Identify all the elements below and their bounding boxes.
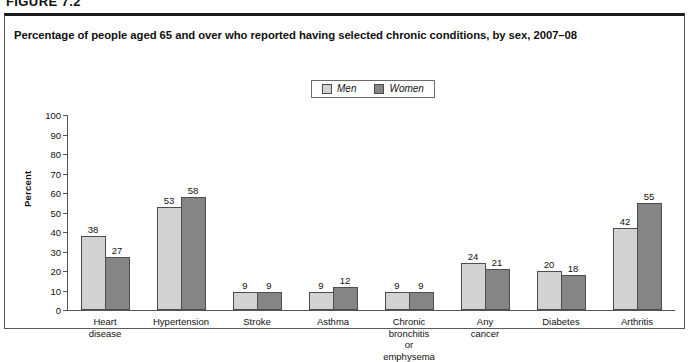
bar-group-bars: 5358: [143, 115, 219, 310]
bar-value-label: 38: [88, 224, 99, 235]
bar-group: 2421Any cancer: [447, 115, 523, 310]
legend-entry-men: Men: [322, 84, 356, 94]
legend-swatch-women-icon: [374, 84, 384, 94]
bar-group-bars: 99: [219, 115, 295, 310]
bar-women[interactable]: 21: [485, 269, 510, 310]
bar-value-label: 58: [188, 185, 199, 196]
chart-legend: Men Women: [311, 80, 435, 98]
bar-men[interactable]: 9: [385, 292, 410, 310]
bar-value-label: 9: [242, 280, 247, 291]
bar-women[interactable]: 27: [105, 257, 130, 310]
figure-box: Percentage of people aged 65 and over wh…: [4, 13, 685, 329]
y-axis-tick-label: 30: [50, 246, 61, 257]
bar-value-label: 18: [568, 263, 579, 274]
bar-value-label: 24: [468, 251, 479, 262]
y-axis-title: Percent: [22, 171, 33, 207]
bar-group-bars: 2018: [523, 115, 599, 310]
y-axis-tick-label: 50: [50, 207, 61, 218]
bar-group-bars: 4255: [599, 115, 675, 310]
y-axis-tick-label: 70: [50, 168, 61, 179]
x-axis-category-label: Arthritis: [621, 316, 653, 328]
bar-group: 4255Arthritis: [599, 115, 675, 310]
legend-entry-women: Women: [374, 84, 423, 94]
x-axis-category-label: Heart disease: [86, 316, 124, 339]
y-axis-tick-label: 20: [50, 266, 61, 277]
bar-men[interactable]: 9: [233, 292, 258, 310]
plot-area: 1009080706050403020100 3827Heart disease…: [67, 115, 675, 311]
bar-men[interactable]: 24: [461, 263, 486, 310]
figure-number: FIGURE 7.2: [6, 0, 81, 9]
bar-men[interactable]: 42: [613, 228, 638, 310]
bar-women[interactable]: 55: [637, 203, 662, 310]
bar-group: 912Asthma: [295, 115, 371, 310]
x-axis-category-label: Hypertension: [153, 316, 209, 328]
y-axis-tick-label: 90: [50, 129, 61, 140]
figure-title: Percentage of people aged 65 and over wh…: [14, 29, 577, 41]
y-axis-tick-mark: [63, 310, 67, 311]
bar-men[interactable]: 9: [309, 292, 334, 310]
y-axis-tick-label: 100: [45, 110, 61, 121]
bar-value-label: 42: [620, 216, 631, 227]
bar-women[interactable]: 18: [561, 275, 586, 310]
bar-men[interactable]: 38: [81, 236, 106, 310]
bar-value-label: 53: [164, 195, 175, 206]
bar-value-label: 21: [492, 257, 503, 268]
bar-women[interactable]: 12: [333, 287, 358, 310]
x-axis-category-label: Any cancer: [466, 316, 504, 339]
bar-group: 2018Diabetes: [523, 115, 599, 310]
bar-group-bars: 99: [371, 115, 447, 310]
bar-group-bars: 2421: [447, 115, 523, 310]
legend-label-men: Men: [337, 84, 356, 94]
y-axis-tick-label: 0: [56, 305, 61, 316]
legend-swatch-men-icon: [322, 84, 332, 94]
bar-group-bars: 912: [295, 115, 371, 310]
bar-value-label: 9: [394, 280, 399, 291]
bar-group: 3827Heart disease: [67, 115, 143, 310]
x-axis-category-label: Asthma: [317, 316, 349, 328]
y-axis-tick-label: 80: [50, 149, 61, 160]
x-axis-category-label: Stroke: [243, 316, 270, 328]
bar-women[interactable]: 9: [257, 292, 282, 310]
legend-label-women: Women: [389, 84, 423, 94]
bar-value-label: 12: [340, 275, 351, 286]
y-axis-tick-label: 60: [50, 188, 61, 199]
y-axis-tick-label: 40: [50, 227, 61, 238]
y-axis-tick-label: 10: [50, 285, 61, 296]
bar-men[interactable]: 20: [537, 271, 562, 310]
bar-value-label: 55: [644, 191, 655, 202]
x-axis-category-label: Chronic bronchitis or emphysema: [383, 316, 435, 362]
bar-group: 5358Hypertension: [143, 115, 219, 310]
bar-group: 99Chronic bronchitis or emphysema: [371, 115, 447, 310]
bar-group-bars: 3827: [67, 115, 143, 310]
bar-value-label: 9: [266, 280, 271, 291]
x-axis-line: [67, 310, 675, 311]
bar-value-label: 20: [544, 259, 555, 270]
x-axis-category-label: Diabetes: [542, 316, 580, 328]
bar-value-label: 27: [112, 245, 123, 256]
bar-women[interactable]: 58: [181, 197, 206, 310]
bar-men[interactable]: 53: [157, 207, 182, 310]
bar-value-label: 9: [318, 280, 323, 291]
bar-women[interactable]: 9: [409, 292, 434, 310]
bar-value-label: 9: [418, 280, 423, 291]
bar-group: 99Stroke: [219, 115, 295, 310]
